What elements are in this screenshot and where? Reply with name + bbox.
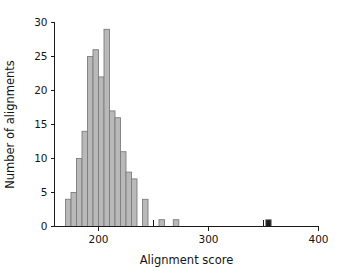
histogram-bar [173,220,179,227]
x-tick-label: 200 [88,233,108,245]
y-tick-label: 5 [41,186,48,198]
histogram-bar [66,199,72,226]
histogram-bar-highlight [266,220,272,227]
histogram-bar [159,220,165,227]
y-tick-label: 10 [34,152,47,164]
histogram-bar [99,77,105,227]
y-tick-label: 0 [41,220,48,232]
alignment-score-histogram: 051015202530 200300400 Alignment score N… [0,0,341,271]
histogram-bar [126,172,132,226]
y-tick-label: 30 [34,16,47,28]
histogram-bar [115,118,121,227]
x-tick-label: 400 [308,233,328,245]
figure-background [0,0,341,271]
histogram-bar [88,57,94,227]
x-tick-label: 300 [198,233,218,245]
y-tick-label: 15 [34,118,47,130]
histogram-bar [143,199,149,226]
y-tick-label: 25 [34,50,47,62]
x-axis-title: Alignment score [140,253,233,267]
histogram-bar [71,193,77,227]
histogram-bar [121,152,127,227]
histogram-figure: 051015202530 200300400 Alignment score N… [0,0,341,271]
y-axis-title: Number of alignments [3,60,17,189]
histogram-bar [104,29,110,226]
y-tick-label: 20 [34,84,47,96]
histogram-bar [110,111,116,227]
histogram-bar [82,131,88,226]
histogram-bar [77,159,83,227]
histogram-bar [93,50,99,227]
histogram-bar [132,179,138,227]
